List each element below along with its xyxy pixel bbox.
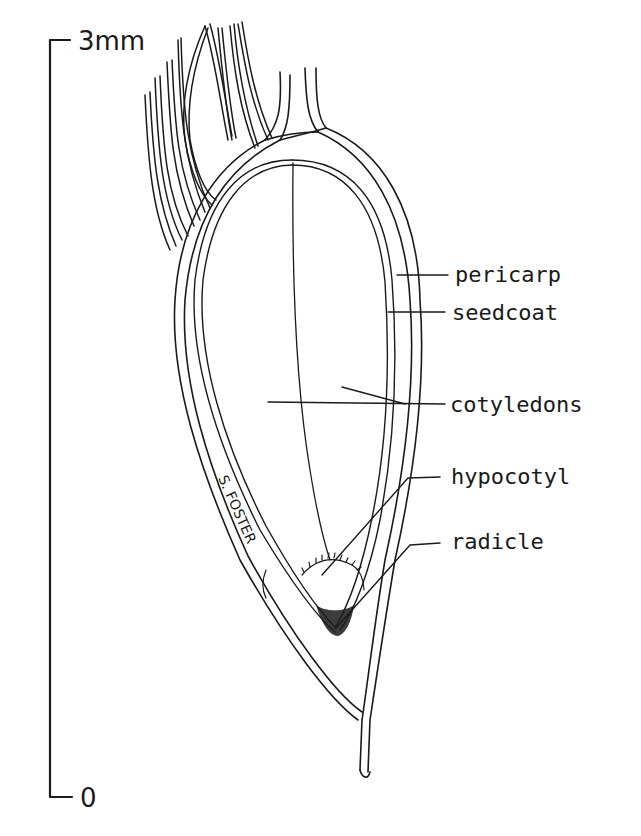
scale-bar-bottom-label: 0 xyxy=(80,783,97,813)
artist-signature: S. FOSTER xyxy=(215,473,259,546)
pericarp-wall xyxy=(174,128,421,777)
leader-cotyledons-b xyxy=(342,387,405,404)
scale-bar: 3mm 0 xyxy=(50,26,145,813)
label-pericarp: pericarp xyxy=(455,262,561,287)
scale-bar-top-label: 3mm xyxy=(78,26,145,56)
seedcoat-wall xyxy=(194,160,395,632)
leader-cotyledons-a xyxy=(268,402,445,404)
label-radicle: radicle xyxy=(451,529,544,554)
seed-diagram: 3mm 0 xyxy=(0,0,641,836)
cotyledon-midline xyxy=(293,163,330,560)
label-seedcoat: seedcoat xyxy=(452,300,558,325)
radicle-tip xyxy=(316,605,354,636)
scale-bar-line xyxy=(50,40,72,797)
label-hypocotyl: hypocotyl xyxy=(451,464,570,489)
hairs xyxy=(145,22,272,250)
stalk xyxy=(265,68,326,140)
part-labels: pericarp seedcoat cotyledons hypocotyl r… xyxy=(450,262,582,554)
label-cotyledons: cotyledons xyxy=(450,392,582,417)
